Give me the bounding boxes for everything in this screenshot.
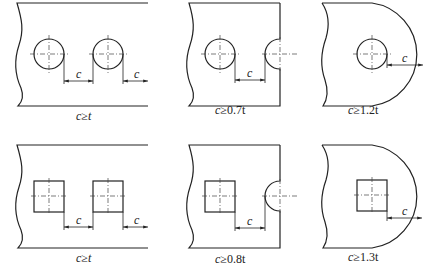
dimension-label: c <box>247 66 253 80</box>
panel-round-hole-to-curved-edge: c c≥1.2t <box>322 3 423 117</box>
panel-square-hole-to-curved-edge: c c≥1.3t <box>322 145 422 264</box>
panel-round-hole-to-notch: c c≥0.7t <box>187 3 298 117</box>
caption: c≥1.2t <box>348 103 379 117</box>
dimension-label: c <box>76 213 82 227</box>
sheet-outline <box>16 3 148 106</box>
dimension-label: c <box>402 204 408 218</box>
dimension-label: c <box>134 213 140 227</box>
dimension-label: c <box>247 214 253 228</box>
dimension-label: c <box>134 67 140 81</box>
panel-square-hole-to-hole: c c c≥t <box>16 145 148 265</box>
caption: c≥t <box>76 109 92 123</box>
sheet-outline <box>322 145 417 248</box>
sheet-outline <box>187 145 280 248</box>
round-hole <box>357 39 387 69</box>
sheet-outline <box>16 145 148 248</box>
dimension-label: c <box>402 51 408 65</box>
dimension-label: c <box>76 67 82 81</box>
round-hole <box>34 39 64 69</box>
hole-spacing-diagram: c c c≥t c c≥0.7t c c≥1.2t <box>0 0 432 280</box>
caption: c≥0.7t <box>215 103 246 117</box>
caption: c≥0.8t <box>215 252 246 266</box>
panel-square-hole-to-notch: c c≥0.8t <box>187 145 298 266</box>
panel-round-hole-to-hole: c c c≥t <box>16 3 148 123</box>
caption: c≥t <box>76 251 92 265</box>
round-hole <box>205 39 235 69</box>
round-hole <box>93 39 123 69</box>
caption: c≥1.3t <box>348 250 379 264</box>
sheet-outline <box>187 3 280 106</box>
